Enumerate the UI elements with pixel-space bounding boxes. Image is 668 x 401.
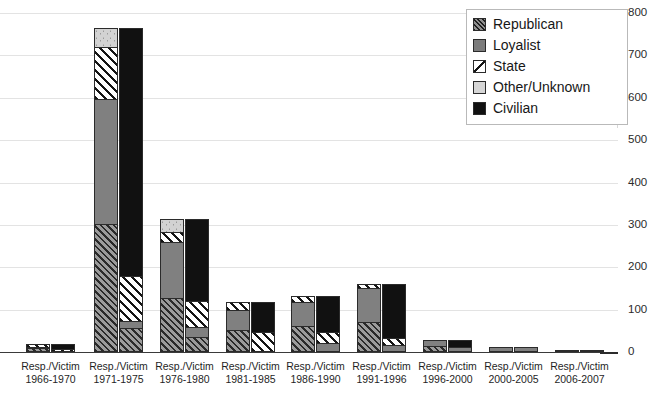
segment-republican [95,225,117,351]
bar-responsibility-1986-1990[interactable] [291,296,315,352]
bar-victim-1996-2000[interactable] [448,340,472,352]
legend-swatch-icon [473,39,486,52]
segment-state [52,350,74,351]
legend-item-label: Loyalist [493,38,540,53]
x-tick-label-1971-1975: Resp./Victim1971-1975 [85,360,153,385]
segment-republican [358,323,380,351]
legend-swatch-icon [473,81,486,94]
segment-civilian [317,297,339,333]
bar-responsibility-1971-1975[interactable] [94,28,118,352]
segment-state [358,285,380,289]
bar-victim-1986-1990[interactable] [316,296,340,352]
y-tick-label-400: 400 [628,177,647,188]
y-tick-label-100: 100 [628,304,647,315]
x-tick-label-line1: Resp./Victim [85,360,153,373]
segment-loyalist [490,348,512,351]
x-tick-label-1996-2000: Resp./Victim1996-2000 [414,360,482,385]
segment-other-unknown [161,220,183,234]
x-tick-label-line1: Resp./Victim [282,360,350,373]
segment-state [317,333,339,343]
bar-responsibility-1991-1996[interactable] [357,284,381,352]
segment-other-unknown [95,29,117,48]
bar-victim-1966-1970[interactable] [51,344,75,352]
x-tick-label-line2: 1971-1975 [85,373,153,386]
segment-civilian [120,29,142,277]
legend-item-label: State [493,59,526,74]
legend-item-label: Civilian [493,101,538,116]
bar-responsibility-1976-1980[interactable] [160,219,184,352]
y-axis-zero-tick [600,352,618,354]
segment-civilian [449,341,471,348]
bar-victim-1981-1985[interactable] [251,302,275,352]
segment-republican [120,329,142,351]
x-tick-label-2006-2007: Resp./Victim2006-2007 [546,360,614,385]
segment-loyalist [161,243,183,299]
x-tick-label-line1: Resp./Victim [480,360,548,373]
segment-republican [27,349,49,351]
segment-republican [186,338,208,351]
x-tick-label-line1: Resp./Victim [414,360,482,373]
bar-responsibility-1996-2000[interactable] [423,340,447,352]
y-tick-label-300: 300 [628,219,647,230]
x-tick-label-line2: 1986-1990 [282,373,350,386]
y-tick-label-0: 0 [628,346,634,357]
legend-swatch-icon [473,102,486,115]
x-tick-label-line2: 1991-1996 [348,373,416,386]
legend-item-loyalist[interactable]: Loyalist [473,35,621,56]
segment-loyalist [358,289,380,323]
bar-responsibility-2006-2007[interactable] [555,350,579,352]
segment-republican [424,347,446,351]
x-tick-label-line2: 1996-2000 [414,373,482,386]
x-tick-label-line1: Resp./Victim [17,360,85,373]
legend-item-state[interactable]: State [473,56,621,77]
segment-republican [161,299,183,351]
segment-republican [292,327,314,351]
segment-loyalist [227,311,249,331]
legend-item-other-unknown[interactable]: Other/Unknown [473,77,621,98]
segment-republican [227,331,249,351]
segment-loyalist [292,303,314,327]
bar-responsibility-2000-2005[interactable] [489,347,513,352]
x-tick-label-line2: 2000-2005 [480,373,548,386]
segment-loyalist [317,344,339,351]
y-tick-label-600: 600 [628,92,647,103]
segment-loyalist [95,100,117,224]
segment-civilian [252,303,274,333]
segment-loyalist [120,322,142,330]
segment-state [292,297,314,303]
gridline-0 [0,352,618,353]
segment-state [120,277,142,321]
bar-victim-1971-1975[interactable] [119,28,143,352]
x-tick-label-1976-1980: Resp./Victim1976-1980 [151,360,219,385]
bar-responsibility-1966-1970[interactable] [26,344,50,352]
x-tick-label-2000-2005: Resp./Victim2000-2005 [480,360,548,385]
legend-item-civilian[interactable]: Civilian [473,98,621,119]
segment-state [186,302,208,328]
segment-civilian [52,345,74,350]
segment-loyalist [449,348,471,351]
segment-civilian [383,285,405,338]
bar-victim-1991-1996[interactable] [382,284,406,352]
legend-item-republican[interactable]: Republican [473,14,621,35]
segment-state [227,303,249,311]
x-tick-label-1991-1996: Resp./Victim1991-1996 [348,360,416,385]
segment-loyalist [424,341,446,347]
y-tick-label-200: 200 [628,261,647,272]
legend-swatch-icon [473,18,486,31]
segment-loyalist [27,348,49,349]
segment-loyalist [383,346,405,351]
bar-victim-1976-1980[interactable] [185,219,209,352]
bar-victim-2000-2005[interactable] [514,347,538,352]
segment-civilian [186,220,208,303]
y-tick-label-700: 700 [628,49,647,60]
y-tick-label-500: 500 [628,134,647,145]
bar-responsibility-1981-1985[interactable] [226,302,250,352]
x-tick-label-1966-1970: Resp./Victim1966-1970 [17,360,85,385]
x-tick-label-line1: Resp./Victim [546,360,614,373]
segment-state [27,345,49,348]
segment-loyalist [515,348,537,351]
legend-swatch-icon [473,60,486,73]
segment-state [95,48,117,101]
x-tick-label-line2: 1981-1985 [217,373,285,386]
x-tick-label-line2: 1966-1970 [17,373,85,386]
